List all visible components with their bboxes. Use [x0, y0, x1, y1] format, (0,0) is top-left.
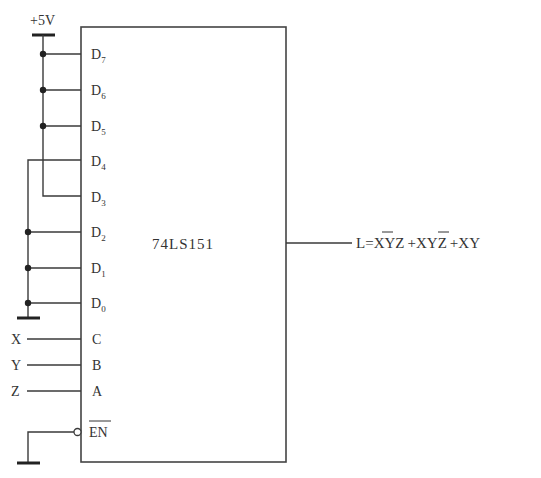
pin-label-en: EN: [89, 425, 108, 440]
output-equation: L=XYZ+XYZ+XY: [356, 235, 480, 251]
signal-y: Y: [11, 358, 21, 373]
circuit-diagram: 74LS151 +5V D7 D6 D5 D4 D3 D2 D1 D0 X Y …: [0, 0, 541, 478]
junction-dot: [25, 300, 31, 306]
junction-dot: [25, 265, 31, 271]
svg-text:L=XYZ+XYZ+XY: L=XYZ+XYZ+XY: [356, 235, 480, 251]
signal-z: Z: [11, 384, 20, 399]
pin-label-b: B: [92, 358, 101, 373]
supply-rail: [43, 35, 81, 196]
ground-rail: [28, 160, 81, 318]
pin-label-c: C: [92, 332, 101, 347]
chip-name: 74LS151: [152, 236, 214, 252]
junction-dot: [40, 123, 46, 129]
junction-dot: [25, 229, 31, 235]
inversion-bubble-icon: [74, 429, 81, 436]
pin-label-a: A: [92, 384, 103, 399]
supply-label: +5V: [30, 13, 55, 28]
wire-enable: [28, 432, 74, 463]
junction-dot: [40, 87, 46, 93]
junction-dot: [40, 51, 46, 57]
signal-x: X: [11, 332, 21, 347]
